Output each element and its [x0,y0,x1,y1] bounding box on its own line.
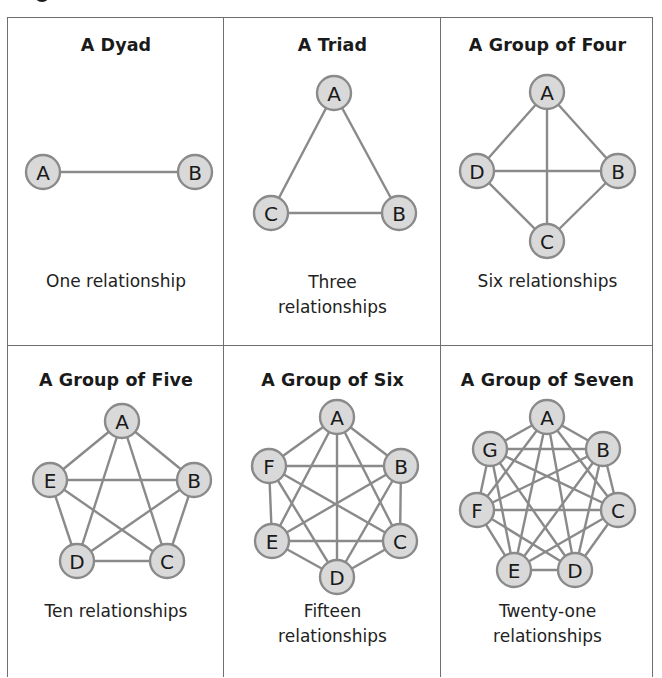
relationship-edge [122,421,167,561]
svg-text:G: G [482,438,498,462]
svg-text:E: E [508,559,521,583]
svg-text:A: A [540,406,554,430]
svg-text:A: A [115,410,129,434]
person-node-b: B [586,432,620,466]
svg-text:B: B [188,161,202,185]
person-node-b: B [384,449,418,483]
graph-a-dyad: AB [26,155,212,189]
person-node-a: A [530,75,564,109]
person-node-c: C [150,544,184,578]
person-node-e: E [33,463,67,497]
person-node-a: A [105,404,139,438]
person-node-d: D [460,154,494,188]
svg-text:E: E [44,469,57,493]
graph-a-triad: ABC [254,76,416,230]
svg-text:C: C [540,230,554,254]
person-node-g: G [473,432,507,466]
relationship-edge [271,93,334,213]
person-node-f: F [252,449,286,483]
person-node-c: C [254,196,288,230]
person-node-a: A [26,155,60,189]
person-node-a: A [320,400,354,434]
person-node-a: A [317,76,351,110]
svg-text:D: D [69,550,84,574]
svg-text:D: D [329,566,344,590]
person-node-e: E [255,524,289,558]
svg-text:E: E [266,530,279,554]
person-node-e: E [497,553,531,587]
graph-a-group-of-seven: ABCDEFG [460,400,635,587]
svg-text:A: A [540,81,554,105]
svg-text:A: A [327,82,341,106]
person-node-d: D [558,553,592,587]
graph-a-group-of-six: ABCDEF [252,400,418,594]
svg-text:A: A [330,406,344,430]
person-node-b: B [178,155,212,189]
svg-text:D: D [567,559,582,583]
svg-text:F: F [263,455,275,479]
person-node-c: C [383,524,417,558]
svg-text:B: B [611,160,625,184]
svg-text:B: B [596,438,610,462]
relationship-edge [77,421,122,561]
relationship-edge [334,93,399,213]
person-node-b: B [601,154,635,188]
svg-text:D: D [469,160,484,184]
graph-a-group-of-five: ABCDE [33,404,211,578]
graph-a-group-of-four: ABCD [460,75,635,258]
person-node-c: C [601,493,635,527]
svg-text:B: B [394,455,408,479]
person-node-a: A [530,400,564,434]
svg-text:C: C [611,499,625,523]
person-node-d: D [60,544,94,578]
person-node-b: B [382,196,416,230]
svg-text:B: B [187,469,201,493]
svg-text:A: A [36,161,50,185]
svg-text:B: B [392,202,406,226]
person-node-b: B [177,463,211,497]
svg-text:C: C [264,202,278,226]
person-node-d: D [320,560,354,594]
svg-text:C: C [160,550,174,574]
person-node-f: F [460,493,494,527]
svg-text:F: F [471,499,483,523]
svg-text:C: C [393,530,407,554]
person-node-c: C [530,224,564,258]
